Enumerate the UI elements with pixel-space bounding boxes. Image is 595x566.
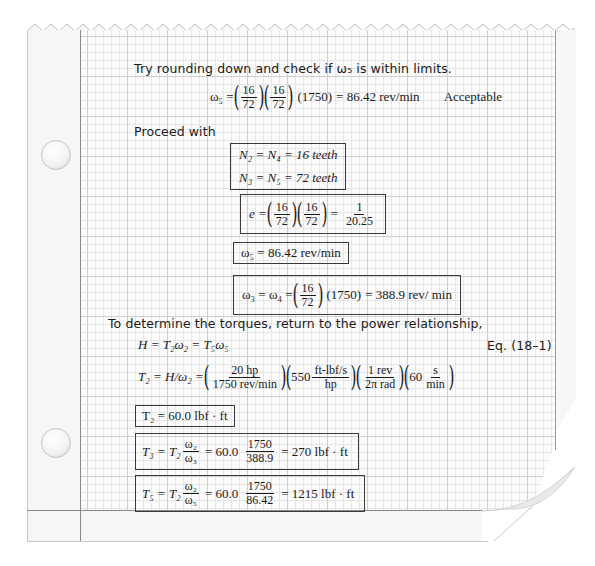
fraction: ω₂ω₅ <box>183 480 199 506</box>
teeth-box: N₂ = N₄ = 16 teeth N₃ = N₅ = 72 teeth <box>230 143 346 190</box>
denominator: 72 <box>304 215 320 228</box>
teeth-n2-n4: N₂ = N₄ = 16 teeth <box>239 147 337 163</box>
eq-lhs: T₃ = T₂ <box>142 444 181 460</box>
left-paren: ( <box>404 363 410 391</box>
numerator: 16 <box>300 282 316 296</box>
power-relation: H = T₂ω₂ = T₅ω₅ <box>138 337 229 353</box>
numerator: ω₂ <box>183 480 199 494</box>
right-margin-line <box>555 30 556 450</box>
left-paren: ( <box>266 200 272 228</box>
t2-result-box: T₂ = 60.0 lbf · ft <box>135 405 235 427</box>
denominator: 20.25 <box>344 215 375 228</box>
left-paren: ( <box>233 83 239 111</box>
fraction: 1672 <box>270 84 286 110</box>
acceptable-label: Acceptable <box>444 89 502 105</box>
fraction: 1672 <box>304 201 320 227</box>
denominator: 2π rad <box>363 378 397 391</box>
fraction: 20 hp1750 rev/min <box>211 364 279 390</box>
fraction: 1672 <box>241 84 257 110</box>
eq-lhs: e = <box>249 206 267 222</box>
fraction: ω₂ω₃ <box>183 438 199 464</box>
teeth-n3-n5: N₃ = N₅ = 72 teeth <box>239 170 337 186</box>
denominator: 72 <box>270 98 286 111</box>
equation-omega5-check: ω₅ = ( 1672 ) ( 1672 ) (1750) = 86.42 re… <box>210 79 502 115</box>
instruction-proceed: Proceed with <box>134 124 216 139</box>
denominator: 72 <box>274 215 290 228</box>
numerator: 1 rev <box>366 364 394 378</box>
omega5-final-box: ω₅ = 86.42 rev/min <box>233 242 349 264</box>
coefficient: 60 <box>409 369 422 385</box>
eq-lhs: T₅ = T₂ <box>142 486 181 502</box>
numerator: 1 <box>354 201 364 215</box>
numerator: 1750 <box>246 438 274 452</box>
train-value-box: e = ( 1672 ) ( 1672 ) = 120.25 <box>240 194 386 234</box>
eq-result: = 86.42 rev/min <box>336 89 420 105</box>
denominator: 72 <box>241 98 257 111</box>
binder-hole-bottom <box>41 428 71 458</box>
left-margin-line <box>80 30 81 541</box>
coefficient: 550 <box>291 369 311 385</box>
denominator: 86.42 <box>244 494 275 507</box>
instruction-torques: To determine the torques, return to the … <box>108 316 483 331</box>
eq-lhs: ω₃ = ω₄ = <box>242 287 293 303</box>
eq-mid: = 60.0 <box>205 486 238 502</box>
denominator: 1750 rev/min <box>211 378 279 391</box>
numerator: ω₂ <box>183 438 199 452</box>
denominator: ω₅ <box>183 494 199 507</box>
numerator: 1750 <box>246 480 274 494</box>
numerator: s <box>431 364 440 378</box>
right-paren: ) <box>317 281 323 309</box>
fraction: 1672 <box>274 201 290 227</box>
numerator: ft-lbf/s <box>312 364 349 378</box>
eq-input: (1750) <box>326 287 361 303</box>
left-paren: ( <box>355 363 361 391</box>
right-paren: ) <box>448 363 454 391</box>
left-paren: ( <box>296 200 302 228</box>
equation-reference: Eq. (18–1) <box>487 338 552 353</box>
denominator: 72 <box>300 296 316 309</box>
fraction: 120.25 <box>344 201 375 227</box>
denominator: 388.9 <box>244 452 275 465</box>
fraction: ft-lbf/shp <box>312 364 349 390</box>
numerator: 16 <box>304 201 320 215</box>
eq-mid: = 60.0 <box>205 444 238 460</box>
numerator: 16 <box>274 201 290 215</box>
denominator: min <box>424 378 447 391</box>
right-paren: ) <box>321 200 327 228</box>
numerator: 16 <box>270 84 286 98</box>
eq-lhs: T₂ = H/ω₂ = <box>138 369 204 385</box>
left-paren: ( <box>263 83 269 111</box>
numerator: 20 hp <box>229 364 260 378</box>
page-curl-icon <box>482 427 577 542</box>
fraction: 1750388.9 <box>244 438 275 464</box>
equation-t2-calc: T₂ = H/ω₂ = ( 20 hp1750 rev/min ) ( 550 … <box>138 357 454 397</box>
instruction-try-rounding: Try rounding down and check if ω₅ is wit… <box>134 61 452 76</box>
left-paren: ( <box>285 363 291 391</box>
t3-box: T₃ = T₂ ω₂ω₃ = 60.0 1750388.9 = 270 lbf … <box>135 433 359 470</box>
eq-lhs: ω₅ = <box>210 89 234 105</box>
fraction: 175086.42 <box>244 480 275 506</box>
eq-result: = 1215 lbf · ft <box>281 486 354 502</box>
eq-result: = 388.9 rev/ min <box>365 287 452 303</box>
numerator: 16 <box>241 84 257 98</box>
eq-input: (1750) <box>297 89 332 105</box>
eq-result: = 270 lbf · ft <box>281 444 348 460</box>
t5-box: T₅ = T₂ ω₂ω₅ = 60.0 175086.42 = 1215 lbf… <box>135 475 365 512</box>
right-paren: ) <box>288 83 294 111</box>
fraction: 1672 <box>300 282 316 308</box>
left-paren: ( <box>292 281 298 309</box>
equals-sign: = <box>331 206 338 222</box>
denominator: hp <box>323 378 339 391</box>
t2-result: T₂ = 60.0 lbf · ft <box>142 408 228 424</box>
equation-power: H = T₂ω₂ = T₅ω₅ <box>138 335 229 355</box>
denominator: ω₃ <box>183 452 199 465</box>
fraction: smin <box>424 364 447 390</box>
binder-hole-top <box>41 140 71 170</box>
left-paren: ( <box>203 363 209 391</box>
fraction: 1 rev2π rad <box>363 364 397 390</box>
omega3-4-box: ω₃ = ω₄ = ( 1672 ) (1750) = 388.9 rev/ m… <box>233 275 461 315</box>
